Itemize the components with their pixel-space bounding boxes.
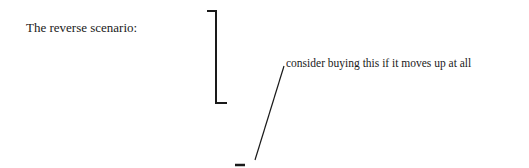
annotation-pointer-line xyxy=(255,66,284,160)
annotation-note: consider buying this if it moves up at a… xyxy=(286,57,471,69)
price-bracket xyxy=(207,11,227,103)
chart-sketch xyxy=(0,0,529,168)
